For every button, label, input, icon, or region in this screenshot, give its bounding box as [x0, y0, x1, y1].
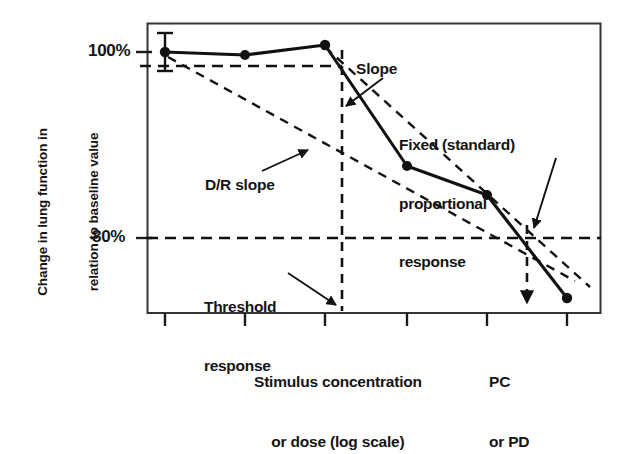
data-point	[240, 50, 250, 60]
annotation-threshold-line2: response	[204, 356, 276, 376]
x-axis-label-line1: Stimulus concentration	[254, 372, 422, 392]
x-axis-pc-pd-label: PC or PD	[489, 332, 529, 454]
pd-label: or PD	[489, 432, 529, 452]
x-axis-label-line2: or dose (log scale)	[254, 432, 422, 452]
y-axis-label-line1: Change in lung function in	[34, 62, 51, 362]
data-point	[562, 293, 572, 303]
annotation-slope: Slope	[356, 60, 397, 78]
y-axis-ticks	[136, 52, 152, 238]
y-axis-label: Change in lung function in relation to b…	[0, 62, 136, 362]
threshold-leader	[288, 273, 336, 305]
annotation-dr-slope: D/R slope	[205, 176, 275, 194]
annotation-fixed-proportional-response: Fixed (standard) proportional response	[399, 96, 515, 311]
x-axis-label: Stimulus concentration or dose (log scal…	[254, 332, 422, 454]
y-tick-label-80: 80%	[92, 227, 125, 247]
annotation-threshold-line1: Threshold	[204, 297, 276, 317]
dr-slope-leader	[262, 150, 308, 171]
pc-label: PC	[489, 372, 529, 392]
y-axis-label-line2: relation to baseline value	[85, 62, 102, 362]
y-tick-label-100: 100%	[88, 41, 130, 61]
fixed-response-leader	[534, 158, 556, 228]
data-point	[320, 40, 330, 50]
annotation-fixed-line3: response	[399, 252, 515, 272]
annotation-fixed-line2: proportional	[399, 194, 515, 214]
annotation-fixed-line1: Fixed (standard)	[399, 135, 515, 155]
annotation-threshold-response: Threshold response	[204, 258, 276, 414]
data-point	[160, 47, 170, 57]
